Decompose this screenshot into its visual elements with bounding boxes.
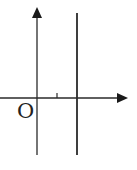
x-axis-arrow-icon (117, 93, 128, 103)
origin-label: O (17, 101, 34, 122)
y-axis-arrow-icon (32, 7, 42, 18)
axes-canvas (0, 0, 137, 170)
